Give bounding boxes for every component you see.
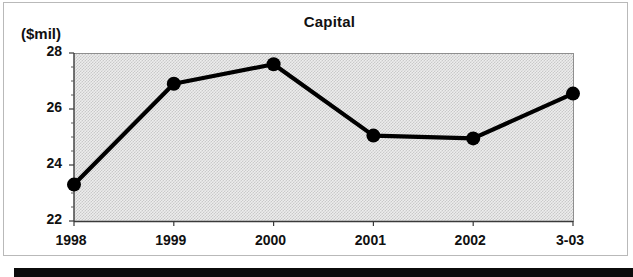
plot-area: [74, 53, 574, 222]
chart-title: Capital: [4, 13, 633, 30]
figure-panel: ($mil) Capital 22242628 1998199920002001…: [3, 2, 628, 256]
x-tick-label: 2001: [355, 232, 386, 248]
page-bottom-bar-notch: [0, 268, 14, 277]
x-tick-label: 3-03: [556, 232, 584, 248]
y-tick-label: 24: [28, 155, 62, 171]
y-tick-label: 22: [28, 211, 62, 227]
x-tick-label: 1998: [55, 232, 86, 248]
x-tick-label: 2000: [255, 232, 286, 248]
page-bottom-bar: [0, 268, 633, 277]
y-tick-label: 26: [28, 99, 62, 115]
y-tick-label: 28: [28, 43, 62, 59]
x-tick-label: 2002: [455, 232, 486, 248]
x-tick-label: 1999: [155, 232, 186, 248]
chart-screenshot: ($mil) Capital 22242628 1998199920002001…: [0, 0, 633, 277]
